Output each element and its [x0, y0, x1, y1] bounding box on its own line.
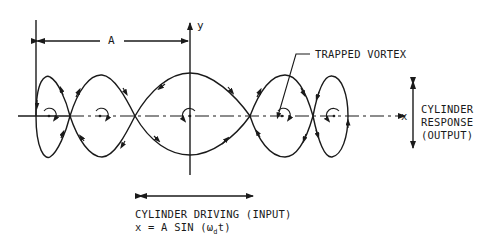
dimension-label: A — [108, 35, 115, 46]
y-axis-label: y — [197, 20, 204, 31]
x-axis-label: x — [401, 111, 408, 122]
formula-subscript: d — [213, 228, 217, 236]
trapped-vortex-label: TRAPPED VORTEX — [315, 49, 406, 60]
formula: x = A SIN (ωdt) — [135, 222, 231, 233]
driving-label: CYLINDER DRIVING (INPUT) — [135, 209, 292, 220]
formula-suffix: t) — [218, 221, 231, 233]
response-label-1: CYLINDER — [421, 104, 473, 115]
formula-prefix: x = A SIN (ω — [135, 221, 213, 233]
response-label-2: RESPONSE — [421, 117, 473, 128]
response-label-3: (OUTPUT) — [421, 130, 473, 141]
